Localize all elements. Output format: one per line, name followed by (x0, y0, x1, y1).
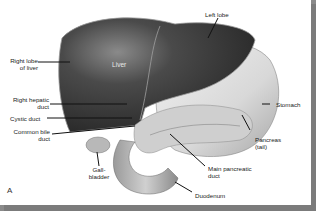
label-right-hepatic-duct: Right hepatic duct (4, 96, 49, 110)
label-pancreas-tail: Pancreas (tail) (255, 136, 281, 150)
label-duodenum: Duodenum (195, 192, 225, 199)
panel-letter: A (7, 187, 12, 194)
gallbladder (86, 137, 110, 153)
label-gallbladder: Gall- bladder (84, 166, 114, 180)
label-cystic-duct: Cystic duct (10, 115, 40, 122)
label-common-bile-duct: Common bile duct (4, 128, 50, 142)
label-right-lobe: Right lobe of liver (4, 57, 38, 71)
label-liver: Liver (112, 61, 126, 68)
label-stomach: Stomach (276, 101, 300, 108)
label-main-pancreatic-duct: Main pancreatic duct (208, 165, 252, 179)
label-left-lobe: Left lobe (205, 11, 229, 18)
